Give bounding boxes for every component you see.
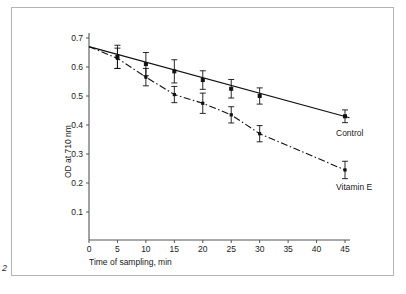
data-point [173, 93, 175, 95]
y-axis-ticks: 0.10.20.30.40.50.60.7 [71, 33, 89, 217]
x-tick-label: 30 [255, 244, 265, 254]
data-point [230, 114, 232, 116]
series-line-control [89, 47, 350, 118]
data-point [201, 79, 204, 82]
x-tick-label: 45 [340, 244, 350, 254]
data-point [258, 95, 261, 98]
x-tick-label: 15 [170, 244, 180, 254]
series-line-vitamin-e [89, 47, 345, 170]
y-tick-label: 0.1 [71, 207, 83, 217]
y-tick-label: 0.7 [71, 33, 83, 43]
series-annotations: ControlVitamin E [336, 128, 373, 192]
data-point [344, 169, 346, 171]
series-annotation-control: Control [336, 128, 364, 138]
x-tick-label: 0 [87, 244, 92, 254]
data-point [202, 102, 204, 104]
x-tick-label: 25 [226, 244, 236, 254]
y-axis-title: OD at 710 nm [63, 125, 73, 178]
y-tick-label: 0.2 [71, 178, 83, 188]
data-point [173, 70, 176, 73]
data-point [230, 87, 233, 90]
x-tick-label: 5 [115, 244, 120, 254]
y-tick-label: 0.5 [71, 91, 83, 101]
data-point [116, 57, 118, 59]
x-tick-label: 35 [283, 244, 293, 254]
x-tick-label: 40 [312, 244, 322, 254]
plot-area: 0.10.20.30.40.50.60.7 051015202530354045… [0, 0, 406, 294]
x-axis-ticks: 051015202530354045 [87, 240, 350, 254]
data-point [144, 63, 147, 66]
x-tick-label: 10 [141, 244, 151, 254]
data-point [259, 133, 261, 135]
data-point [145, 76, 147, 78]
y-tick-label: 0.6 [71, 62, 83, 72]
x-tick-label: 20 [198, 244, 208, 254]
figure-root: 2 0.10.20.30.40.50.60.7 0510152025303540… [0, 0, 406, 294]
x-axis-title: Time of sampling, min [89, 257, 172, 267]
series-layer [89, 45, 350, 178]
data-point [344, 115, 347, 118]
series-annotation-vitamin-e: Vitamin E [336, 182, 373, 192]
